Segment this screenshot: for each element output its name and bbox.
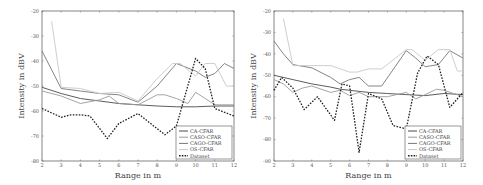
x-tick-label: 3 <box>60 162 63 168</box>
y-tick-label: -70 <box>31 133 39 139</box>
series-line-cago <box>274 41 463 86</box>
series-line-os <box>283 19 463 73</box>
x-tick-label: 11 <box>212 162 218 168</box>
series-line-caso <box>274 80 463 99</box>
x-tick-label: 2 <box>272 162 275 168</box>
y-axis-label: Intensity in dBV <box>249 53 258 119</box>
x-tick-label: 3 <box>291 162 294 168</box>
chart-panel-1: 23456789101112-20-30-40-50-60-70-80Range… <box>17 8 237 180</box>
y-axis-label: Intensity in dBV <box>17 53 26 119</box>
legend-entry: CAGO-CFAR <box>419 140 451 146</box>
y-tick-label: -60 <box>263 93 271 99</box>
legend-entry: CA-CFAR <box>419 128 443 134</box>
y-tick-label: -30 <box>31 33 39 39</box>
chart-figure: 23456789101112-20-30-40-50-60-70-80Range… <box>0 0 483 185</box>
legend-entry: OS-CFAR <box>419 146 443 152</box>
legend: CA-CFARCASO-CFARCAGO-CFAROS-CFARDataset <box>176 126 232 159</box>
x-tick-label: 8 <box>386 162 389 168</box>
legend-entry: CAGO-CFAR <box>190 140 222 146</box>
x-tick-label: 10 <box>192 162 198 168</box>
x-tick-label: 6 <box>348 162 351 168</box>
y-tick-label: -50 <box>31 83 39 89</box>
y-tick-label: -90 <box>263 158 271 164</box>
y-tick-label: -40 <box>31 58 39 64</box>
legend-entry: Dataset <box>190 153 210 159</box>
x-tick-label: 2 <box>40 162 43 168</box>
x-tick-label: 10 <box>422 162 428 168</box>
y-tick-label: -60 <box>31 108 39 114</box>
figure: 23456789101112-20-30-40-50-60-70-80Range… <box>0 0 483 185</box>
x-tick-label: 12 <box>460 162 466 168</box>
x-axis-label: Range in m <box>345 171 392 180</box>
chart-panel-2: 23456789101112-20-30-40-50-60-70-80-90Ra… <box>249 8 466 180</box>
x-tick-label: 11 <box>441 162 447 168</box>
y-tick-label: -40 <box>263 51 271 57</box>
x-tick-label: 7 <box>136 162 139 168</box>
x-tick-label: 5 <box>98 162 101 168</box>
y-tick-label: -70 <box>263 115 271 121</box>
series-line-cago <box>42 51 234 102</box>
series-line-os <box>52 21 234 101</box>
x-tick-label: 4 <box>79 162 82 168</box>
y-tick-label: -20 <box>263 8 271 14</box>
x-tick-label: 12 <box>231 162 237 168</box>
y-tick-label: -20 <box>31 8 39 14</box>
legend-entry: CA-CFAR <box>190 128 214 134</box>
series-line-caso <box>42 91 234 105</box>
legend-entry: Dataset <box>419 153 439 159</box>
series-line-ca <box>42 87 234 107</box>
x-axis-label: Range in m <box>115 171 162 180</box>
legend-entry: OS-CFAR <box>190 146 214 152</box>
y-tick-label: -80 <box>31 158 39 164</box>
y-tick-label: -30 <box>263 29 271 35</box>
legend-entry: CASO-CFAR <box>419 134 450 140</box>
x-tick-label: 8 <box>156 162 159 168</box>
x-tick-label: 9 <box>405 162 408 168</box>
x-tick-label: 5 <box>329 162 332 168</box>
legend: CA-CFARCASO-CFARCAGO-CFAROS-CFARDataset <box>405 126 461 159</box>
y-tick-label: -80 <box>263 136 271 142</box>
y-tick-label: -50 <box>263 72 271 78</box>
x-tick-label: 7 <box>367 162 370 168</box>
legend-entry: CASO-CFAR <box>190 134 221 140</box>
x-tick-label: 4 <box>310 162 313 168</box>
x-tick-label: 6 <box>117 162 120 168</box>
x-tick-label: 9 <box>175 162 178 168</box>
